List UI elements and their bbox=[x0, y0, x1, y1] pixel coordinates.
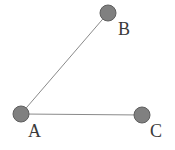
node-c[interactable] bbox=[134, 107, 150, 123]
node-label-c: C bbox=[150, 122, 162, 140]
graph-svg bbox=[0, 0, 175, 150]
node-label-a: A bbox=[28, 122, 41, 140]
edge-a-b bbox=[21, 13, 108, 114]
node-b[interactable] bbox=[100, 5, 116, 21]
node-a[interactable] bbox=[13, 106, 29, 122]
edge-a-c bbox=[21, 114, 142, 115]
diagram-canvas: A B C bbox=[0, 0, 175, 150]
node-label-b: B bbox=[118, 20, 130, 38]
